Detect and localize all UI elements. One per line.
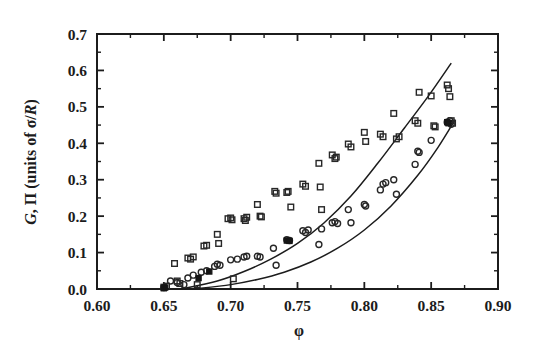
y-tick-label: 0.1 xyxy=(68,244,87,261)
data-point-circle xyxy=(273,262,279,268)
data-point-square xyxy=(363,139,369,145)
data-point-square xyxy=(316,161,322,167)
x-tick-label: 0.75 xyxy=(284,297,311,314)
data-point-circle xyxy=(181,282,187,288)
y-axis-title: G, Π (units of σ/R) xyxy=(22,99,40,225)
x-tick-label: 0.60 xyxy=(83,297,110,314)
data-point-circle xyxy=(319,226,325,232)
y-tick-label: 0.2 xyxy=(68,208,88,225)
data-point-circle xyxy=(391,177,397,183)
data-point-circle xyxy=(234,256,240,262)
data-point-filled xyxy=(207,269,212,274)
fit-curve-lower-fit xyxy=(193,120,455,289)
data-point-filled xyxy=(196,275,201,280)
y-tick-label: 0.6 xyxy=(68,62,88,79)
axis-frame xyxy=(97,34,498,289)
y-tick-label: 0.3 xyxy=(68,171,88,188)
y-axis-tick-labels: 0.00.10.20.30.40.50.60.7 xyxy=(68,26,88,298)
x-axis-ticks xyxy=(97,34,498,289)
data-point-circle xyxy=(412,161,418,167)
data-point-circle xyxy=(393,191,399,197)
data-point-square xyxy=(172,261,178,267)
data-point-circle xyxy=(270,245,276,251)
y-tick-label: 0.0 xyxy=(68,281,88,298)
data-point-square xyxy=(319,207,325,213)
x-axis-label-text: φ xyxy=(294,322,304,340)
data-point-square xyxy=(216,241,222,247)
data-point-square xyxy=(215,232,221,238)
x-tick-label: 0.80 xyxy=(351,297,378,314)
data-point-square xyxy=(255,202,261,208)
data-point-filled xyxy=(446,121,451,126)
data-point-circle xyxy=(377,187,383,193)
series-open-square-markers xyxy=(161,82,455,290)
x-tick-label: 0.90 xyxy=(484,297,511,314)
data-point-circle xyxy=(168,278,174,284)
fit-curve-upper-fit xyxy=(181,63,451,289)
data-point-square xyxy=(317,184,323,190)
data-point-circle xyxy=(428,137,434,143)
data-point-circle xyxy=(190,272,196,278)
x-tick-label: 0.65 xyxy=(150,297,177,314)
x-axis-tick-labels: 0.600.650.700.750.800.850.90 xyxy=(83,297,511,314)
data-point-square xyxy=(447,94,453,100)
x-tick-label: 0.85 xyxy=(418,297,445,314)
figure-container: 0.600.650.700.750.800.850.90 0.00.10.20.… xyxy=(0,0,537,344)
data-point-square xyxy=(362,130,368,136)
data-point-filled xyxy=(163,285,168,290)
y-tick-label: 0.7 xyxy=(68,26,88,43)
y-axis-ticks xyxy=(97,34,498,289)
y-tick-label: 0.5 xyxy=(68,98,88,115)
data-point-square xyxy=(416,89,422,95)
data-point-circle xyxy=(228,257,234,263)
data-point-square xyxy=(288,204,294,210)
data-point-square xyxy=(391,111,397,117)
x-axis-title: φ xyxy=(294,322,304,340)
scatter-plot: 0.600.650.700.750.800.850.90 0.00.10.20.… xyxy=(0,0,537,344)
data-point-circle xyxy=(316,242,322,248)
data-point-circle xyxy=(363,203,369,209)
y-tick-label: 0.4 xyxy=(68,135,88,152)
y-axis-label-text: G, Π (units of σ/R) xyxy=(22,99,40,225)
data-point-filled xyxy=(287,238,292,243)
data-point-circle xyxy=(348,220,354,226)
data-point-circle xyxy=(345,207,351,213)
fit-curves xyxy=(181,63,455,289)
series-filled-markers xyxy=(161,120,451,291)
series-open-circle-markers xyxy=(161,118,454,291)
x-tick-label: 0.70 xyxy=(217,297,244,314)
